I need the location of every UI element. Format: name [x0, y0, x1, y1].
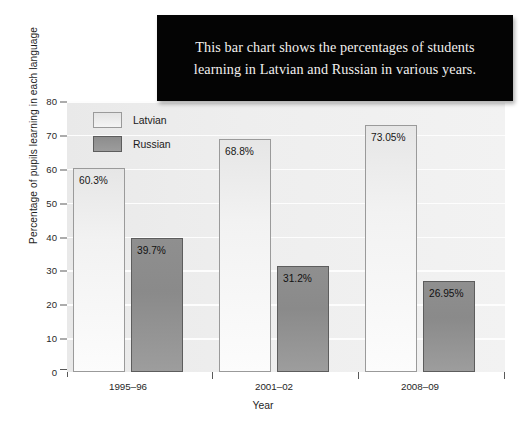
caption-box: This bar chart shows the percentages of … [157, 15, 513, 101]
bar-russian-1: 31.2% [277, 266, 329, 372]
chart-legend: Latvian Russian [93, 112, 171, 160]
bar-value-label: 68.8% [225, 146, 254, 157]
bar-russian-0: 39.7% [131, 238, 183, 372]
x-axis-category-label: 2008–09 [401, 381, 439, 392]
gridline [67, 169, 505, 171]
y-axis-tick-label: 80 [46, 96, 67, 107]
bar-value-label: 73.05% [371, 132, 406, 143]
y-axis-tick-label: 20 [46, 299, 67, 310]
y-axis-tick-label: 70 [46, 129, 67, 140]
y-axis-tick-group: 01020304050607080 [30, 101, 67, 372]
gridline [67, 101, 505, 103]
caption-text: This bar chart shows the percentages of … [157, 36, 513, 80]
x-axis-category-label: 2001–02 [255, 381, 293, 392]
x-axis-tick [212, 372, 213, 379]
legend-swatch-latvian [93, 112, 122, 128]
bar-latvian-0: 60.3% [73, 168, 125, 372]
y-axis-tick-label: 30 [46, 265, 67, 276]
bar-russian-2: 26.95% [423, 281, 475, 372]
legend-item-latvian: Latvian [93, 112, 171, 128]
x-axis-tick [504, 372, 505, 379]
y-axis-tick-label: 60 [46, 163, 67, 174]
y-axis-tick-label: 50 [46, 197, 67, 208]
bar-value-label: 26.95% [429, 288, 464, 299]
y-axis-tick-label: 10 [46, 333, 67, 344]
bar-value-label: 39.7% [137, 245, 166, 256]
x-axis-tick [358, 372, 359, 379]
gridline [67, 203, 505, 205]
bar-value-label: 31.2% [283, 273, 312, 284]
bar-latvian-1: 68.8% [219, 139, 271, 372]
x-axis-category-label: 1995–96 [109, 381, 147, 392]
legend-label-latvian: Latvian [133, 115, 167, 126]
x-axis-title: Year [0, 400, 526, 411]
legend-swatch-russian [93, 136, 122, 152]
y-axis-tick-label: 40 [46, 231, 67, 242]
bar-latvian-2: 73.05% [365, 125, 417, 372]
bar-value-label: 60.3% [79, 175, 108, 186]
legend-label-russian: Russian [133, 139, 171, 150]
legend-item-russian: Russian [93, 136, 171, 152]
